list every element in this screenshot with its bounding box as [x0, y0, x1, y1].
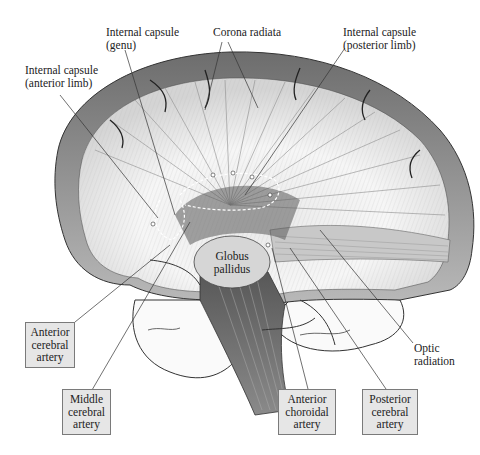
box-line: Posterior [363, 393, 417, 406]
label-line: Internal capsule [343, 26, 416, 39]
box-middle-cerebral-artery: Middle cerebral artery [62, 389, 111, 435]
label-line: Internal capsule [106, 26, 179, 39]
box-posterior-cerebral-artery: Posterior cerebral artery [362, 389, 418, 435]
label-line: (anterior limb) [25, 77, 98, 90]
label-line: radiation [414, 355, 455, 368]
brain-diagram: Internal capsule (genu) Corona radiata I… [0, 0, 480, 455]
box-line: choroidal [279, 406, 335, 419]
label-line: (posterior limb) [343, 39, 416, 52]
box-line: cerebral [26, 339, 74, 352]
box-line: Middle [63, 393, 110, 406]
label-line: Globus [202, 250, 262, 263]
label-internal-capsule-posterior: Internal capsule (posterior limb) [343, 26, 416, 52]
box-anterior-choroidal-artery: Anterior choroidal artery [278, 389, 336, 435]
box-line: artery [63, 418, 110, 431]
box-line: artery [279, 418, 335, 431]
label-line: pallidus [202, 263, 262, 276]
box-line: cerebral [363, 406, 417, 419]
box-line: cerebral [63, 406, 110, 419]
box-line: Anterior [279, 393, 335, 406]
box-line: artery [363, 418, 417, 431]
label-line: (genu) [106, 39, 179, 52]
label-globus-pallidus: Globus pallidus [202, 250, 262, 275]
label-internal-capsule-genu: Internal capsule (genu) [106, 26, 179, 52]
label-internal-capsule-anterior: Internal capsule (anterior limb) [25, 64, 98, 90]
label-corona-radiata: Corona radiata [213, 26, 281, 39]
label-line: Optic [414, 342, 455, 355]
label-optic-radiation: Optic radiation [414, 342, 455, 368]
box-anterior-cerebral-artery: Anterior cerebral artery [25, 322, 75, 368]
label-line: Corona radiata [213, 26, 281, 39]
box-line: artery [26, 351, 74, 364]
label-line: Internal capsule [25, 64, 98, 77]
box-line: Anterior [26, 326, 74, 339]
